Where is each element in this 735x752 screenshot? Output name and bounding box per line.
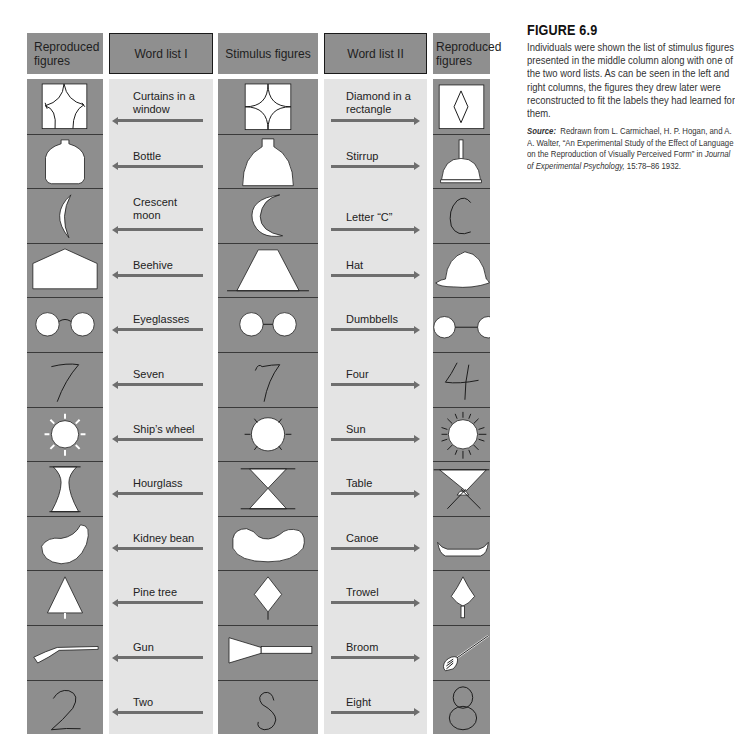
stimulus-circle-with-rays bbox=[218, 407, 318, 462]
source-label: Source: bbox=[527, 126, 556, 136]
figure-title: FIGURE 6.9 bbox=[527, 22, 714, 38]
header-stimulus-figures: Stimulus figures bbox=[218, 33, 318, 74]
word-label: Table bbox=[346, 477, 372, 490]
header-label: Stimulus figures bbox=[225, 47, 310, 61]
word-list-2-item: Stirrup bbox=[324, 134, 427, 189]
stimulus-s-like-curve bbox=[218, 680, 318, 735]
word-list-1-item: Two bbox=[109, 680, 213, 735]
word-label: Broom bbox=[346, 641, 378, 654]
word-label: Seven bbox=[133, 368, 164, 381]
stimulus-curved-blob bbox=[218, 516, 318, 571]
arrow-right-icon bbox=[331, 492, 415, 495]
stimulus-trapezoid bbox=[218, 243, 318, 298]
figure-crescent-moon bbox=[27, 188, 103, 243]
word-list-1-column: Curtains in a window Bottle Crescent moo… bbox=[109, 79, 213, 734]
arrow-right-icon bbox=[331, 165, 415, 168]
word-list-1-item: Kidney bean bbox=[109, 516, 213, 571]
arrow-left-icon bbox=[117, 328, 203, 331]
word-list-2-item: Eight bbox=[324, 680, 427, 735]
figure-stirrup bbox=[433, 134, 490, 189]
word-list-2-item: Diamond in a rectangle bbox=[324, 79, 427, 134]
arrow-left-icon bbox=[117, 601, 203, 604]
word-label: Curtains in a window bbox=[133, 90, 213, 116]
word-list-1-item: Beehive bbox=[109, 243, 213, 298]
arrow-right-icon bbox=[331, 119, 415, 122]
header-label: Word list II bbox=[347, 47, 403, 61]
word-list-1-item: Eyeglasses bbox=[109, 297, 213, 352]
word-label: Pine tree bbox=[133, 586, 177, 599]
arrow-left-icon bbox=[117, 165, 203, 168]
arrow-right-icon bbox=[331, 656, 415, 659]
word-list-1-item: Hourglass bbox=[109, 461, 213, 516]
word-list-2-item: Table bbox=[324, 461, 427, 516]
arrow-right-icon bbox=[331, 383, 415, 386]
figure-gun bbox=[27, 625, 103, 680]
figure-ships-wheel bbox=[27, 407, 103, 462]
word-list-1-item: Bottle bbox=[109, 134, 213, 189]
stimulus-diamond-in-rectangle bbox=[218, 79, 318, 134]
word-list-2-item: Broom bbox=[324, 625, 427, 680]
stimulus-seven-like bbox=[218, 352, 318, 407]
figure-diamond-in-rectangle bbox=[433, 79, 490, 134]
source-text-1: Redrawn from L. Carmichael, H. P. Hogan,… bbox=[527, 126, 734, 159]
header-label: Word list I bbox=[134, 47, 187, 61]
word-list-1-item: Gun bbox=[109, 625, 213, 680]
word-label: Dumbbells bbox=[346, 313, 398, 326]
source-text-2: 15:78–86 1932. bbox=[625, 161, 681, 171]
word-list-1-item: Ship’s wheel bbox=[109, 407, 213, 462]
figure-eight bbox=[433, 680, 490, 735]
figure-curtains-in-window bbox=[27, 79, 103, 134]
word-label: Sun bbox=[346, 423, 366, 436]
figure-trowel bbox=[433, 570, 490, 625]
figure-dumbbells bbox=[433, 297, 490, 352]
word-list-2-item: Trowel bbox=[324, 570, 427, 625]
word-label: Two bbox=[133, 696, 153, 709]
word-label: Bottle bbox=[133, 150, 161, 163]
arrow-left-icon bbox=[117, 228, 203, 231]
arrow-right-icon bbox=[331, 328, 415, 331]
figure-bottle bbox=[27, 134, 103, 189]
reproduced-figures-right-column bbox=[433, 79, 490, 734]
word-list-2-item: Letter “C” bbox=[324, 188, 427, 243]
figure-table bbox=[433, 461, 490, 516]
word-list-2-column: Diamond in a rectangle Stirrup Letter “C… bbox=[324, 79, 427, 734]
header-word-list-1: Word list I bbox=[109, 33, 213, 74]
word-list-2-item: Dumbbells bbox=[324, 297, 427, 352]
arrow-right-icon bbox=[331, 438, 415, 441]
stimulus-triangle-with-bar bbox=[218, 625, 318, 680]
header-label: Reproduced figures bbox=[436, 40, 490, 68]
arrow-right-icon bbox=[331, 274, 415, 277]
arrow-right-icon bbox=[331, 711, 415, 714]
figure-four bbox=[433, 352, 490, 407]
figure-kidney-bean bbox=[27, 516, 103, 571]
word-label: Beehive bbox=[133, 259, 173, 272]
word-list-2-item: Hat bbox=[324, 243, 427, 298]
stimulus-figures-column bbox=[218, 79, 318, 734]
figure-caption: FIGURE 6.9 Individuals were shown the li… bbox=[527, 22, 735, 173]
word-list-1-item: Crescent moon bbox=[109, 188, 213, 243]
word-list-2-item: Sun bbox=[324, 407, 427, 462]
figure-hat bbox=[433, 243, 490, 298]
arrow-right-icon bbox=[331, 547, 415, 550]
figure-broom bbox=[433, 625, 490, 680]
header-reproduced-right: Reproduced figures bbox=[433, 33, 490, 74]
word-label: Gun bbox=[133, 641, 154, 654]
arrow-left-icon bbox=[117, 711, 203, 714]
word-list-1-item: Pine tree bbox=[109, 570, 213, 625]
figure-pine-tree bbox=[27, 570, 103, 625]
caption-body: Individuals were shown the list of stimu… bbox=[527, 41, 735, 120]
stimulus-two-triangles bbox=[218, 461, 318, 516]
word-label: Eight bbox=[346, 696, 371, 709]
word-label: Letter “C” bbox=[346, 211, 392, 224]
figure-beehive bbox=[27, 243, 103, 298]
word-label: Hourglass bbox=[133, 477, 183, 490]
arrow-left-icon bbox=[117, 274, 203, 277]
figure-letter-c bbox=[433, 188, 490, 243]
arrow-right-icon bbox=[331, 601, 415, 604]
arrow-right-icon bbox=[331, 228, 415, 231]
figure-sun bbox=[433, 407, 490, 462]
figure-hourglass bbox=[27, 461, 103, 516]
word-label: Diamond in a rectangle bbox=[346, 90, 427, 116]
word-label: Canoe bbox=[346, 532, 378, 545]
arrow-left-icon bbox=[117, 492, 203, 495]
